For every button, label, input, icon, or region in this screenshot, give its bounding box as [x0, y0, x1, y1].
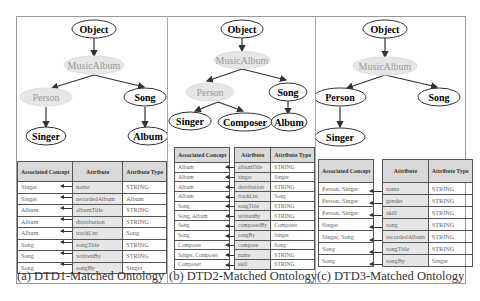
attribute-table-a: AttributeAttribute Type nameSTRING recor…: [72, 161, 167, 274]
node-singer: Singer: [326, 132, 354, 143]
type-cell: STRING: [271, 182, 315, 192]
attribute-cell: songTitle: [73, 239, 123, 251]
type-cell: STRING: [271, 201, 315, 211]
concept-cell: Song: [175, 230, 230, 240]
concept-cell: Album: [175, 192, 230, 202]
concept-cell: Song, Album: [175, 211, 230, 221]
attribute-table-b: AttributeAttribute Type albumTitleSTRING…: [234, 147, 315, 270]
type-cell: STRING: [428, 219, 472, 231]
concept-cell: Album: [175, 182, 230, 192]
header-attribute: Attribute: [235, 148, 271, 163]
type-cell: Composer: [271, 221, 315, 231]
attribute-cell: singer: [235, 172, 271, 182]
attribute-cell: name: [73, 182, 123, 194]
panel-b: Object MusicAlbum Person Song Singer Com…: [168, 17, 315, 283]
type-cell: STRING: [271, 163, 315, 173]
attribute-cell: trackList: [73, 228, 123, 240]
concept-cell: Composer: [175, 240, 230, 250]
attribute-cell: skill: [383, 207, 429, 219]
node-album: Album: [133, 131, 163, 142]
type-cell: STRING: [428, 183, 472, 195]
type-cell: Singer: [271, 230, 315, 240]
type-cell: STRING: [428, 195, 472, 207]
header-concept: Associated Concept: [18, 162, 73, 182]
attribute-cell: albumTitle: [235, 163, 271, 173]
header-attribute: Attribute: [73, 162, 123, 182]
type-cell: Song: [271, 240, 315, 250]
concept-cell: Singer: [18, 193, 73, 205]
type-cell: STRING: [123, 216, 167, 228]
node-musicalbum: MusicAlbum: [359, 61, 412, 72]
node-song: Song: [277, 87, 298, 98]
concept-cell: Album: [175, 163, 230, 173]
attribute-cell: distribution: [73, 216, 123, 228]
link-arrow: [370, 252, 382, 253]
link-arrow: [61, 197, 72, 198]
node-song: Song: [134, 92, 155, 103]
type-cell: Singer: [428, 255, 472, 267]
link-arrow: [226, 265, 234, 266]
attribute-cell: recordedAlbum: [383, 231, 429, 243]
link-arrow: [61, 253, 72, 254]
node-musicalbum: MusicAlbum: [216, 55, 269, 66]
link-arrow: [226, 216, 234, 217]
link-arrow: [61, 242, 72, 243]
concept-cell: Song: [175, 201, 230, 211]
attribute-cell: skill: [235, 259, 271, 269]
concept-cell: Album: [18, 205, 73, 217]
link-arrow: [61, 219, 72, 220]
attribute-cell: song: [383, 219, 429, 231]
link-arrow: [226, 255, 234, 256]
link-arrow: [226, 206, 234, 207]
attribute-table-c: AttributeAttribute Type nameSTRING gende…: [382, 159, 473, 267]
header-attribute: Attribute: [383, 160, 429, 183]
attribute-cell: recordedAlbum: [73, 193, 123, 205]
concept-cell: Song: [319, 255, 374, 267]
node-singer: Singer: [176, 116, 204, 127]
type-cell: STRING: [123, 182, 167, 194]
link-arrow: [370, 215, 382, 216]
node-song: Song: [428, 92, 449, 103]
node-object: Object: [80, 24, 110, 35]
node-object: Object: [228, 24, 258, 35]
caption-a: (a) DTD1-Matched Ontology: [17, 269, 164, 284]
link-arrow: [61, 208, 72, 209]
concept-cell: Singer: [18, 182, 73, 194]
node-composer: Composer: [223, 117, 267, 128]
node-album: Album: [274, 117, 304, 128]
attribute-cell: trackList: [235, 192, 271, 202]
attribute-cell: composedBy: [235, 221, 271, 231]
panel-a: Object MusicAlbum Person Song Singer Alb…: [17, 17, 167, 283]
type-cell: STRING: [271, 259, 315, 269]
link-arrow: [370, 264, 382, 265]
link-arrow: [370, 203, 382, 204]
link-arrow: [61, 231, 72, 232]
type-cell: STRING: [271, 211, 315, 221]
caption-c: (c) DTD3-Matched Ontology: [317, 269, 464, 284]
concept-cell: Singer, Song: [319, 231, 374, 243]
link-arrow: [226, 236, 234, 237]
header-concept: Associated Concept: [175, 148, 230, 163]
attribute-cell: gender: [383, 195, 429, 207]
node-musicalbum: MusicAlbum: [68, 60, 121, 71]
ontology-tree-c: Object MusicAlbum Person Song Singer: [316, 17, 465, 147]
header-type: Attribute Type: [428, 160, 472, 183]
link-arrow: [61, 264, 72, 265]
link-arrow: [226, 187, 234, 188]
link-arrow: [370, 227, 382, 228]
attribute-cell: name: [235, 250, 271, 260]
concept-cell: Song: [18, 239, 73, 251]
type-cell: STRING: [428, 243, 472, 255]
header-type: Attribute Type: [271, 148, 315, 163]
link-arrow: [226, 197, 234, 198]
concept-table-b: Associated Concept Album Album Album Alb…: [174, 147, 230, 270]
header-concept: Associated Concept: [319, 160, 374, 183]
caption-b: (b) DTD2-Matched Ontology: [169, 269, 317, 284]
attribute-cell: compose: [235, 240, 271, 250]
attribute-cell: songTitle: [383, 243, 429, 255]
attribute-cell: distribution: [235, 182, 271, 192]
concept-cell: Person, Singer: [319, 207, 374, 219]
node-person: Person: [32, 92, 59, 103]
attribute-cell: writtenBy: [73, 251, 123, 263]
attribute-cell: name: [383, 183, 429, 195]
